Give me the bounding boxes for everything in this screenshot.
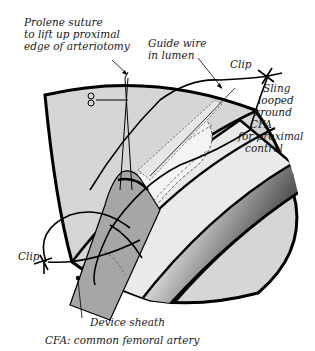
femoral-artery-diagram: Prolene suture to lift up proximal edge …	[0, 0, 315, 351]
label-sling-2: looped	[258, 94, 294, 106]
label-sling-6: control	[245, 142, 283, 154]
label-device-sheath: Device sheath	[89, 316, 165, 328]
label-guide-1: Guide wire	[148, 37, 206, 49]
label-footnote: CFA: common femoral artery	[45, 334, 200, 346]
label-sling-4: CFA	[250, 118, 272, 130]
label-prolene-2: to lift up proximal	[24, 28, 120, 40]
label-sling-3: around	[254, 106, 292, 118]
label-prolene-3: edge of arteriotomy	[24, 40, 131, 52]
label-prolene-1: Prolene suture	[23, 16, 103, 28]
label-sling-1: Sling	[263, 82, 291, 94]
label-guide-2: in lumen	[148, 49, 195, 61]
label-sling-5: for proximal	[237, 130, 303, 142]
label-clip-bottom: Clip	[18, 250, 40, 262]
label-clip-top: Clip	[230, 58, 252, 70]
guide-arrowhead-icon	[217, 83, 222, 89]
prolene-arrowhead-icon	[122, 70, 127, 75]
